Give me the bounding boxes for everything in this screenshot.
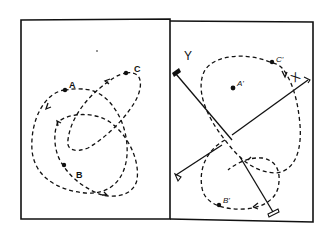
- point-c-prime: [270, 60, 274, 64]
- point-b: [62, 163, 66, 167]
- point-c: [124, 71, 128, 75]
- speck: [96, 50, 98, 52]
- right-trajectories: A' B' C': [201, 55, 300, 209]
- diagram-canvas: A B C Y X A' B' C': [0, 0, 329, 238]
- arrowhead-icon: [57, 121, 61, 126]
- y-axis-end-icon: [172, 68, 181, 77]
- left-trajectories: A B C: [32, 50, 141, 196]
- point-a: [63, 88, 67, 92]
- point-a-prime: [231, 86, 236, 91]
- x-axis-arrow-icon: [175, 174, 181, 181]
- label-c: C: [134, 64, 141, 74]
- x-axis-label: X: [288, 69, 303, 85]
- label-c-prime: C': [276, 55, 284, 64]
- left-panel: [21, 19, 170, 219]
- y-axis-upper: [176, 74, 232, 140]
- arrowhead-icon: [102, 192, 107, 195]
- arrowhead-icon: [253, 203, 258, 209]
- x-axis-upper: [232, 80, 308, 135]
- left-panel-frame: [21, 19, 170, 219]
- trajectory-upper-loop: [201, 56, 300, 173]
- y-axis-arrow-icon: [268, 209, 279, 217]
- label-a: A: [69, 80, 76, 90]
- label-b: B: [76, 170, 83, 180]
- label-b-prime: B': [223, 196, 230, 205]
- trajectory-c-loop: [68, 73, 141, 151]
- y-axis-label: Y: [184, 49, 192, 63]
- right-axes: Y X: [172, 49, 310, 217]
- x-axis-lower: [176, 145, 222, 175]
- arrowhead-icon: [46, 103, 51, 109]
- label-a-prime: A': [236, 79, 244, 88]
- point-b-prime: [217, 203, 221, 207]
- arrowhead-icon: [248, 157, 251, 160]
- trajectory-b-loop: [55, 115, 138, 197]
